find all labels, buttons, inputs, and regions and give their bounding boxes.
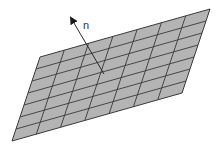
diagram-canvas: n bbox=[0, 0, 224, 147]
normal-vector-label: n bbox=[83, 19, 89, 31]
plane-surface bbox=[12, 9, 210, 141]
